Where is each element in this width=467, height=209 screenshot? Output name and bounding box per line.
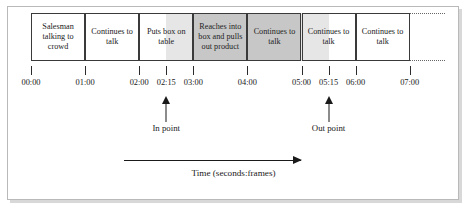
axis-tick-label: 07:00: [400, 78, 419, 87]
axis-tick-label: 06:00: [346, 78, 365, 87]
timeline-continuation-dotted-line: [410, 60, 445, 61]
axis-tick-label: 04:00: [238, 78, 257, 87]
timeline-segment-label: Continues to talk: [249, 27, 299, 47]
axis-tick-label: 05:00: [292, 78, 311, 87]
timeline-segment[interactable]: Salesman talking to crowd: [31, 13, 85, 61]
axis-tick: [410, 66, 411, 75]
timeline-segment-label: Continues to talk: [304, 27, 354, 47]
arrow-head-icon: [293, 156, 302, 164]
out-point-marker[interactable]: Out point: [299, 101, 359, 137]
axis-tick-label: 00:00: [21, 78, 40, 87]
timeline-segment[interactable]: Continues to talk: [85, 13, 139, 61]
axis-tick-label: 02:00: [130, 78, 149, 87]
time-axis: 00:0001:0002:0002:1503:0004:0005:0005:15…: [0, 66, 467, 96]
axis-tick: [139, 66, 140, 75]
axis-tick: [247, 66, 248, 75]
out-point-stem: [328, 101, 329, 122]
timeline-segment-label: Salesman talking to crowd: [33, 22, 83, 52]
axis-tick: [31, 66, 32, 75]
axis-tick-label: 03:00: [184, 78, 203, 87]
axis-tick-label: 05:15: [319, 78, 338, 87]
axis-tick: [356, 66, 357, 75]
timeline-segment[interactable]: Reaches into box and pulls out product: [193, 13, 247, 61]
timeline-segment[interactable]: Puts box on table: [139, 13, 193, 61]
in-point-stem: [166, 101, 167, 122]
axis-tick: [329, 66, 330, 75]
axis-tick: [302, 66, 303, 75]
time-direction-arrow: [124, 160, 301, 161]
timeline-segment[interactable]: Continues to talk: [302, 13, 356, 61]
timeline-segment[interactable]: Continues to talk: [356, 13, 410, 61]
axis-tick: [193, 66, 194, 75]
in-point-label: In point: [152, 123, 180, 133]
axis-tick: [85, 66, 86, 75]
axis-tick: [166, 66, 167, 75]
time-axis-caption: Time (seconds:frames): [0, 168, 467, 178]
timeline-segment-label: Continues to talk: [87, 27, 137, 47]
out-point-label: Out point: [312, 123, 345, 133]
in-point-marker[interactable]: In point: [136, 101, 196, 137]
timeline-segment-label: Reaches into box and pulls out product: [195, 22, 245, 52]
timeline-segment-label: Continues to talk: [358, 27, 408, 47]
axis-tick-label: 02:15: [157, 78, 176, 87]
axis-tick-label: 01:00: [76, 78, 95, 87]
timeline-continuation-dotted-line: [410, 13, 445, 14]
timeline-segment[interactable]: Continues to talk: [247, 13, 301, 61]
timeline-segment-label: Puts box on table: [141, 27, 191, 47]
timeline-figure: Salesman talking to crowdContinues to ta…: [0, 0, 467, 209]
